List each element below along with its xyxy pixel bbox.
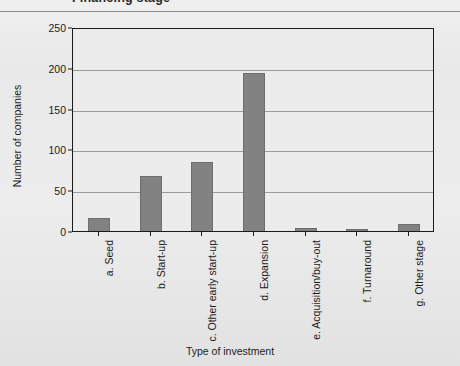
y-tick-label: 0 xyxy=(28,226,66,238)
x-tick-mark xyxy=(150,232,151,236)
bar xyxy=(295,228,317,231)
chart-page: Financing stage 050100150200250Number of… xyxy=(0,0,460,366)
x-tick-mark xyxy=(305,232,306,236)
bar-series xyxy=(73,29,433,231)
y-tick-label: 250 xyxy=(28,22,66,34)
y-tick-label: 200 xyxy=(28,63,66,75)
x-tick-mark xyxy=(98,232,99,236)
x-tick-mark xyxy=(201,232,202,236)
y-axis-title: Number of companies xyxy=(11,56,23,216)
x-tick-mark xyxy=(356,232,357,236)
x-tick-label: c. Other early start-up xyxy=(206,240,218,342)
bar xyxy=(346,229,368,231)
plot-area xyxy=(72,28,434,232)
x-tick-mark xyxy=(408,232,409,236)
x-tick-mark xyxy=(253,232,254,236)
x-tick-label: d. Expansion xyxy=(258,240,270,301)
x-tick-label: b. Start-up xyxy=(155,240,167,289)
title-divider xyxy=(0,11,460,12)
x-tick-label: f. Turnaround xyxy=(361,240,373,302)
chart-title: Financing stage xyxy=(72,0,170,5)
bar xyxy=(398,224,420,231)
y-tick-label: 150 xyxy=(28,104,66,116)
bar xyxy=(243,73,265,231)
x-tick-label: a. Seed xyxy=(103,240,115,276)
y-tick-label: 50 xyxy=(28,185,66,197)
x-tick-label: e. Acquisition/buy-out xyxy=(310,240,322,340)
bar xyxy=(88,218,110,231)
x-tick-label: g. Other stage xyxy=(413,240,425,307)
x-axis-title: Type of investment xyxy=(0,345,460,357)
y-tick-label: 100 xyxy=(28,144,66,156)
bar xyxy=(140,176,162,231)
bar xyxy=(191,162,213,231)
